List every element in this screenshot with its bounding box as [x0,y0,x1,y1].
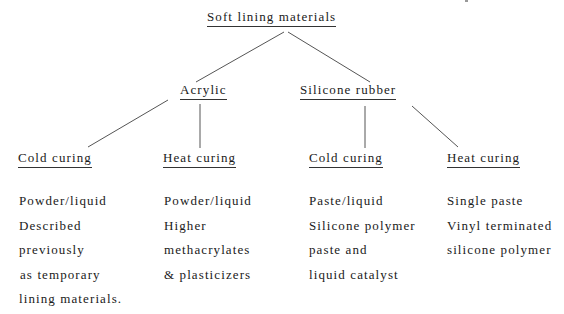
desc-line: paste and [309,238,416,263]
edge-acrylic-cold [88,100,168,147]
desc-line: Vinyl terminated [447,214,552,239]
desc-line: silicone polymer [447,238,552,263]
desc-acrylic-heat-curing: Powder/liquid Higher methacrylates & pla… [164,189,252,287]
desc-line: previously [19,238,122,263]
node-silicone-heat-curing: Heat curing [447,150,520,168]
desc-line: Powder/liquid [19,189,122,214]
desc-line: methacrylates [164,238,252,263]
node-acrylic-cold-curing: Cold curing [18,150,92,168]
desc-line: liquid catalyst [309,263,416,288]
desc-line: & plasticizers [164,263,252,288]
desc-silicone-cold-curing: Paste/liquid Silicone polymer paste and … [309,189,416,287]
edge-root-acrylic [196,32,284,82]
node-silicone-rubber: Silicone rubber [300,82,396,100]
desc-line: Described [19,214,122,239]
desc-silicone-heat-curing: Single paste Vinyl terminated silicone p… [447,189,552,263]
node-root-soft-lining-materials: Soft lining materials [207,9,336,27]
edge-root-silicone [288,32,370,82]
desc-line: Powder/liquid [164,189,252,214]
desc-acrylic-cold-curing: Powder/liquid Described previously as te… [19,189,122,312]
node-acrylic-heat-curing: Heat curing [163,150,236,168]
desc-line: as temporary [19,263,122,288]
desc-line: Paste/liquid [309,189,416,214]
desc-line: Silicone polymer [309,214,416,239]
node-silicone-cold-curing: Cold curing [309,150,383,168]
node-acrylic: Acrylic [180,82,227,100]
desc-line: Single paste [447,189,552,214]
desc-line: Higher [164,214,252,239]
desc-line: lining materials. [19,287,122,312]
edge-silicone-heat [412,106,458,147]
